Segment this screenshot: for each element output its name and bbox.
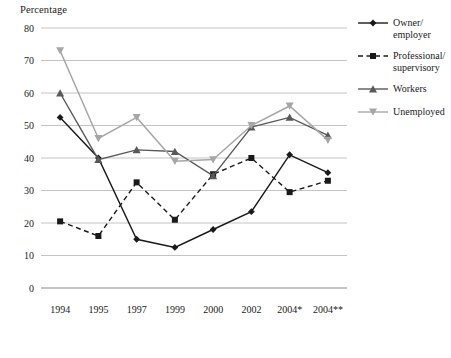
x-axis-tick-labels: 1994199519971999200020022004*2004**	[50, 304, 343, 315]
data-point-marker	[210, 226, 217, 233]
data-point-marker	[56, 47, 64, 54]
chart-container: Percentage 01020304050607080 19941995199…	[0, 0, 451, 358]
y-axis-tick-labels: 01020304050607080	[24, 23, 34, 294]
legend-marker-triangle-down-icon	[357, 105, 389, 119]
data-point-marker	[324, 137, 332, 144]
series-line	[60, 158, 328, 236]
y-axis-tick-label: 70	[24, 55, 34, 66]
data-point-marker	[95, 233, 101, 239]
data-point-marker	[286, 114, 294, 121]
y-axis-tick-label: 50	[24, 120, 34, 131]
data-point-marker	[57, 218, 63, 224]
y-axis-tick-label: 40	[24, 153, 34, 164]
data-series	[56, 47, 332, 165]
legend-marker-triangle-up-icon	[357, 82, 389, 96]
data-point-marker	[134, 179, 140, 185]
legend-item-label: Professional/ supervisory	[393, 49, 445, 73]
y-axis-tick-label: 20	[24, 218, 34, 229]
data-point-marker	[94, 135, 102, 142]
legend-item-label: Owner/ employer	[393, 16, 431, 40]
legend-item-label: Workers	[393, 82, 427, 95]
data-point-marker	[248, 155, 254, 161]
x-axis-tick-label: 1999	[165, 304, 185, 315]
data-point-marker	[133, 236, 140, 243]
legend-item[interactable]: Owner/ employer	[357, 16, 451, 40]
gridlines	[41, 28, 347, 288]
x-axis-tick-label: 1995	[88, 304, 108, 315]
data-point-marker	[370, 20, 377, 27]
legend-item[interactable]: Unemployed	[357, 105, 451, 119]
y-axis-tick-label: 10	[24, 250, 34, 261]
y-axis-tick-label: 80	[24, 23, 34, 34]
x-axis-tick-label: 1997	[127, 304, 147, 315]
legend-item-label: Unemployed	[393, 105, 445, 118]
data-point-marker	[287, 189, 293, 195]
data-series	[57, 114, 332, 251]
x-axis-tick-label: 2002	[241, 304, 261, 315]
chart-legend: Owner/ employerProfessional/ supervisory…	[357, 16, 451, 128]
x-axis-tick-label: 1994	[50, 304, 70, 315]
data-point-marker	[325, 178, 331, 184]
x-axis-tick-label: 2000	[203, 304, 223, 315]
data-series	[57, 155, 331, 239]
y-axis-tick-label: 60	[24, 88, 34, 99]
y-axis-tick-label: 30	[24, 185, 34, 196]
x-axis-tick-label: 2004**	[313, 304, 343, 315]
legend-item[interactable]: Workers	[357, 82, 451, 96]
data-point-marker	[370, 53, 376, 59]
y-axis-tick-label: 0	[29, 283, 34, 294]
data-point-marker	[171, 244, 178, 251]
legend-marker-square-icon	[357, 49, 389, 63]
data-point-marker	[324, 169, 331, 176]
x-axis-tick-label: 2004*	[277, 304, 302, 315]
data-series-layer	[56, 47, 332, 250]
data-point-marker	[172, 217, 178, 223]
legend-marker-diamond-icon	[357, 16, 389, 30]
legend-item[interactable]: Professional/ supervisory	[357, 49, 451, 73]
